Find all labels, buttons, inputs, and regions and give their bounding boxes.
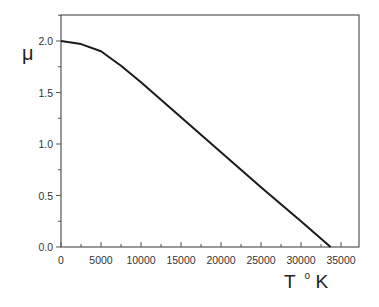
y-axis-title: μ bbox=[22, 42, 34, 64]
plot-frame bbox=[61, 15, 359, 247]
x-tick-label: 0 bbox=[58, 254, 64, 266]
x-tick-label: 5000 bbox=[89, 254, 113, 266]
y-tick-label: 0.5 bbox=[38, 190, 53, 202]
x-tick-label: 20000 bbox=[206, 254, 235, 266]
y-axis-ticks: 0.00.51.01.52.0 bbox=[38, 15, 61, 253]
y-tick-label: 1.5 bbox=[38, 87, 53, 99]
x-tick-label: 35000 bbox=[326, 254, 355, 266]
x-tick-label: 25000 bbox=[246, 254, 275, 266]
x-tick-label: 15000 bbox=[166, 254, 195, 266]
y-tick-label: 2.0 bbox=[38, 35, 53, 47]
x-axis-title-K: K bbox=[315, 271, 328, 292]
x-axis-title-T: T bbox=[284, 271, 296, 292]
chart: 05000100001500020000250003000035000 0.00… bbox=[0, 0, 379, 307]
y-tick-label: 0.0 bbox=[38, 241, 53, 253]
x-axis-title: T o K bbox=[284, 262, 328, 292]
mu-curve bbox=[61, 41, 331, 247]
x-axis-title-degree: o bbox=[305, 270, 311, 281]
y-tick-label: 1.0 bbox=[38, 138, 53, 150]
x-tick-label: 10000 bbox=[126, 254, 155, 266]
